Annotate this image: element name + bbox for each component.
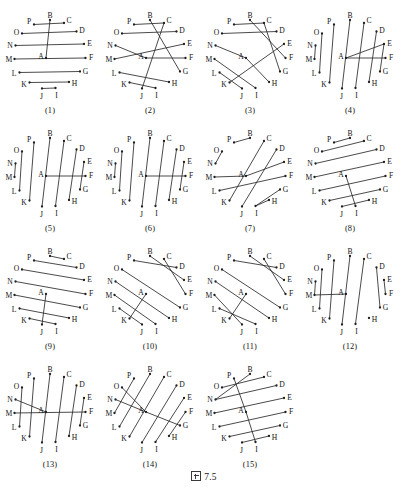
vertex-dot-P <box>33 377 35 379</box>
vertex-dot-H <box>168 435 170 437</box>
matching-graph-5: ABCDEFGHIJKLMNOP <box>0 124 100 224</box>
vertex-label-P: P <box>327 253 331 262</box>
vertex-label-C: C <box>166 134 171 143</box>
vertex-label-H: H <box>72 79 78 88</box>
chord-MG <box>15 295 81 308</box>
vertex-dot-F <box>84 411 86 413</box>
vertex-label-J: J <box>340 328 343 337</box>
vertex-dot-L <box>218 425 220 427</box>
vertex-dot-G <box>379 70 381 72</box>
vertex-label-E: E <box>87 275 92 284</box>
vertex-dot-E <box>83 161 85 163</box>
vertex-dot-E <box>83 397 85 399</box>
vertex-dot-P <box>133 23 135 25</box>
vertex-dot-P <box>333 259 335 261</box>
chord-CG <box>264 23 280 72</box>
vertex-dot-P <box>33 259 35 261</box>
vertex-label-K: K <box>21 80 27 89</box>
vertex-label-I: I <box>55 209 58 218</box>
vertex-label-J: J <box>140 92 143 101</box>
vertex-dot-E <box>183 397 185 399</box>
vertex-group: ABCDEFGHIJKLMNOP <box>206 11 294 101</box>
chord-AK <box>230 294 247 319</box>
chord-OD <box>222 32 277 34</box>
chord-AH <box>246 58 269 82</box>
vertex-label-B: B <box>347 247 352 256</box>
vertex-dot-E <box>283 161 285 163</box>
vertex-dot-L <box>18 425 20 427</box>
vertex-dot-N <box>114 162 116 164</box>
vertex-dot-P <box>233 259 235 261</box>
vertex-dot-J <box>41 441 43 443</box>
vertex-label-M: M <box>106 409 113 418</box>
vertex-dot-D <box>75 266 77 268</box>
vertex-label-G: G <box>183 303 189 312</box>
diagram-9: ABCDEFGHIJKLMNOP(9) <box>0 242 100 360</box>
vertex-dot-M <box>313 176 315 178</box>
diagram-canvas-14: ABCDEFGHIJKLMNOP <box>100 360 200 460</box>
vertex-label-I: I <box>155 327 158 336</box>
vertex-dot-D <box>275 148 277 150</box>
chord-DH <box>369 32 377 83</box>
diagram-index-label-1: (1) <box>0 105 100 117</box>
diagram-6: ABCDEFGHIJKLMNOP(6) <box>100 124 200 242</box>
vertex-dot-I <box>54 205 56 207</box>
vertex-group: ABCDEFGHIJKLMNOP <box>106 247 194 337</box>
vertex-dot-O <box>221 386 223 388</box>
chord-DH <box>69 386 77 437</box>
vertex-dot-G <box>279 70 281 72</box>
vertex-label-L: L <box>112 187 117 196</box>
vertex-label-I: I <box>255 445 258 454</box>
vertex-dot-A <box>145 293 147 295</box>
vertex-dot-M <box>13 58 15 60</box>
vertex-dot-H <box>268 199 270 201</box>
chord-BC <box>50 256 64 259</box>
vertex-dot-O <box>121 150 123 152</box>
vertex-dot-A <box>145 411 147 413</box>
vertex-dot-D <box>375 266 377 268</box>
vertex-dot-F <box>84 175 86 177</box>
chord-OE <box>22 270 84 281</box>
vertex-dot-O <box>321 150 323 152</box>
chord-OD <box>22 32 77 34</box>
vertex-dot-E <box>283 279 285 281</box>
vertex-label-M: M <box>106 55 113 64</box>
diagram-14: ABCDEFGHIJKLMNOP(14) <box>100 360 200 478</box>
vertex-label-I: I <box>155 445 158 454</box>
vertex-label-I: I <box>155 91 158 100</box>
vertex-dot-I <box>354 205 356 207</box>
vertex-label-M: M <box>306 291 313 300</box>
chord-PK <box>30 143 35 201</box>
vertex-label-O: O <box>14 382 20 391</box>
vertex-label-K: K <box>321 316 327 325</box>
vertex-dot-L <box>118 71 120 73</box>
vertex-dot-I <box>254 87 256 89</box>
vertex-dot-O <box>221 32 223 34</box>
chord-DG <box>377 268 381 308</box>
vertex-dot-H <box>68 199 70 201</box>
chord-NM <box>315 46 316 60</box>
vertex-dot-I <box>54 323 56 325</box>
matching-graph-14: ABCDEFGHIJKLMNOP <box>100 360 200 460</box>
vertex-dot-J <box>41 205 43 207</box>
vertex-label-C: C <box>66 252 71 261</box>
vertex-label-K: K <box>21 198 27 207</box>
chord-CI <box>56 377 65 442</box>
vertex-label-N: N <box>107 395 113 404</box>
vertex-dot-M <box>213 176 215 178</box>
vertex-label-N: N <box>207 41 213 50</box>
vertex-label-P: P <box>27 135 31 144</box>
vertex-label-H: H <box>72 433 78 442</box>
vertex-dot-A <box>45 411 47 413</box>
vertex-label-K: K <box>121 198 127 207</box>
vertex-dot-N <box>14 44 16 46</box>
vertex-label-N: N <box>207 159 213 168</box>
vertex-label-E: E <box>287 393 292 402</box>
matching-graph-10: ABCDEFGHIJKLMNOP <box>100 242 200 342</box>
vertex-dot-E <box>183 43 185 45</box>
vertex-dot-J <box>41 87 43 89</box>
vertex-label-K: K <box>121 80 127 89</box>
vertex-label-C: C <box>266 134 271 143</box>
vertex-label-I: I <box>55 327 58 336</box>
vertex-dot-H <box>168 317 170 319</box>
